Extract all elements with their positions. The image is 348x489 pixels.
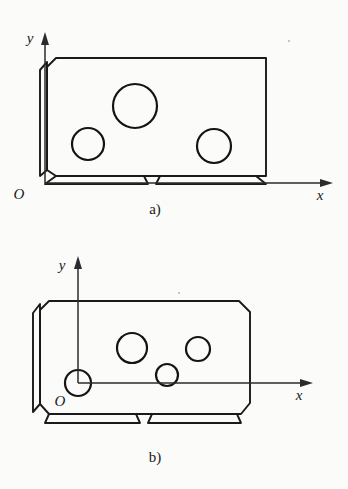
- part-b-foot-right: [148, 414, 241, 423]
- y-axis-arrowhead-b: [74, 256, 82, 269]
- y-axis-label-b: y: [57, 257, 66, 273]
- part-b-foot-left: [45, 414, 140, 423]
- part-b-large-hole: [117, 333, 147, 363]
- x-axis-arrowhead-a: [320, 179, 333, 187]
- x-axis-label-a: x: [316, 187, 324, 203]
- part-a-large-hole: [113, 84, 157, 128]
- part-b-right-hole: [186, 337, 210, 361]
- origin-label-b: O: [55, 393, 66, 409]
- x-axis-label-b: x: [295, 387, 303, 403]
- caption-a: a): [149, 201, 161, 218]
- part-a-right-hole: [197, 129, 231, 163]
- part-b-main-face: [40, 301, 250, 414]
- part-b-left-side-strip: [33, 304, 40, 412]
- origin-label-a: O: [14, 186, 25, 202]
- caption-b: b): [149, 449, 162, 466]
- x-axis-arrowhead-b: [300, 379, 313, 387]
- subfigure-a: x y O a): [14, 30, 333, 218]
- paper-speck-b: [178, 292, 180, 294]
- part-a-left-side-strip: [40, 62, 47, 176]
- part-a-left-hole: [72, 128, 104, 160]
- figure-sheet: x y O a): [0, 0, 348, 489]
- y-axis-arrowhead-a: [41, 32, 49, 45]
- y-axis-label-a: y: [25, 30, 34, 46]
- paper-speck-a: [288, 40, 290, 42]
- subfigure-b: x y O b): [33, 256, 313, 466]
- engineering-drawing-figure: x y O a): [0, 0, 348, 489]
